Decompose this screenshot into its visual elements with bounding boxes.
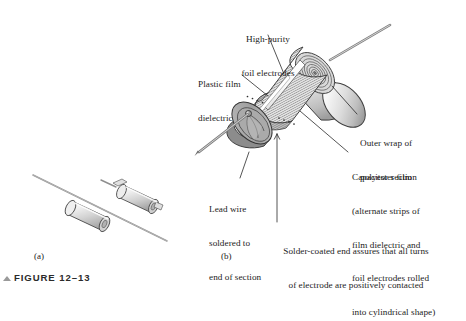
figure-caption: FIGURE 12–13 <box>14 272 90 283</box>
capacitor-body-front-a <box>63 199 112 233</box>
panel-label-b: (b) <box>221 251 232 261</box>
callout-line: Lead wire <box>209 204 289 215</box>
leader-lead-wire <box>240 152 249 178</box>
callout-line: Solder-coated end assures that all turns <box>258 246 454 257</box>
panel-a-illustration <box>33 175 167 241</box>
callout-line: Plastic film <box>198 79 268 90</box>
panel-label-a: (a) <box>34 251 44 261</box>
triangle-up-icon <box>3 276 11 281</box>
callout-line: High-purity <box>209 34 327 45</box>
callout-line: of electrode are positively contacted <box>258 280 454 291</box>
callout-solder-coated-end: Solder-coated end assures that all turns… <box>258 224 454 314</box>
callout-line: Capacitor section <box>352 172 466 183</box>
callout-line: dielectric <box>198 113 268 124</box>
capacitor-body-rear-a <box>101 179 163 215</box>
lead-wire-right-b <box>330 25 390 60</box>
callout-line: Outer wrap of <box>360 138 464 149</box>
callout-plastic-film-dielectric: Plastic film dielectric <box>198 57 268 147</box>
callout-line: (alternate strips of <box>352 206 466 217</box>
